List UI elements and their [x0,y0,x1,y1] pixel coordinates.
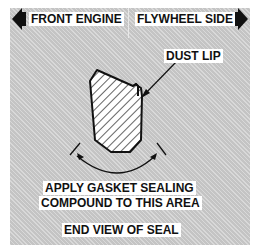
front-engine-label: FRONT ENGINE [29,12,124,26]
instruction-line-1: APPLY GASKET SEALING [43,181,196,195]
arrow-left-icon [12,8,26,30]
seal-cross-section-icon [90,70,142,152]
dust-lip-label: DUST LIP [164,49,223,63]
instruction-line-2: COMPOUND TO THIS AREA [39,196,202,210]
flywheel-side-label: FLYWHEEL SIDE [135,12,235,26]
dust-lip-leader-arrow-icon [141,60,178,98]
seal-diagram [0,0,258,251]
diagram-caption: END VIEW OF SEAL [62,223,181,237]
